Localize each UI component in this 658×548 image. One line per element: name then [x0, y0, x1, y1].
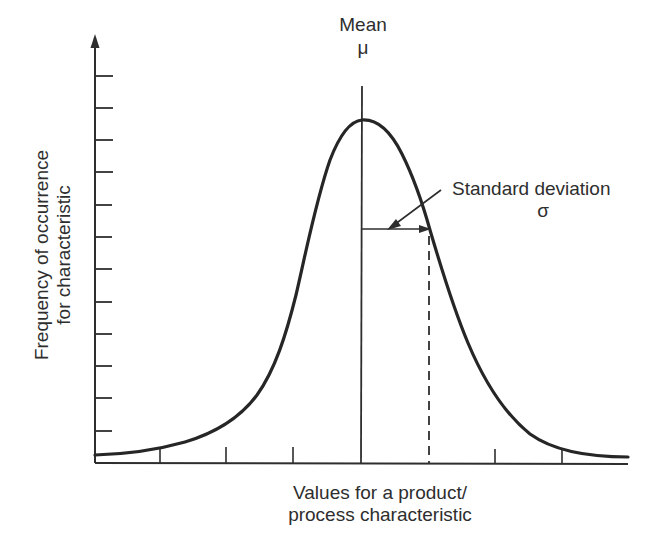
mean-label: Mean — [335, 14, 391, 36]
x-axis-label-line1: Values for a product/ — [230, 482, 530, 504]
y-axis-label: Frequency of occurrence for characterist… — [31, 105, 75, 405]
y-axis-ticks — [95, 76, 113, 431]
mean-line — [361, 86, 362, 463]
x-axis-label: Values for a product/ process characteri… — [230, 482, 530, 526]
x-axis-label-line2: process characteristic — [230, 504, 530, 526]
y-axis-label-line2: for characteristic — [53, 105, 75, 405]
x-axis — [95, 463, 628, 464]
y-axis-arrow-icon — [91, 34, 100, 48]
normal-distribution-chart — [0, 0, 658, 548]
sigma-symbol: σ — [528, 200, 558, 222]
standard-deviation-label: Standard deviation — [452, 178, 610, 200]
mu-symbol: μ — [345, 37, 381, 59]
y-axis-label-line1: Frequency of occurrence — [31, 105, 53, 405]
